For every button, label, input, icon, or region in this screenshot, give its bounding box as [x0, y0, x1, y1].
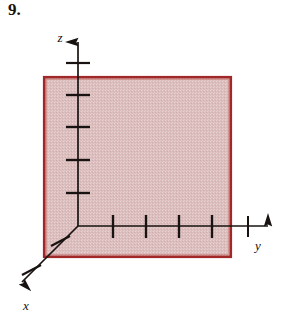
axis-z-label: z [56, 30, 62, 45]
axis-y-label: y [253, 238, 261, 253]
coordinate-axes-figure: z y x [0, 0, 290, 316]
shaded-region-fill [44, 77, 231, 257]
figure-container: 9. [0, 0, 290, 316]
axis-x-label: x [22, 298, 29, 313]
